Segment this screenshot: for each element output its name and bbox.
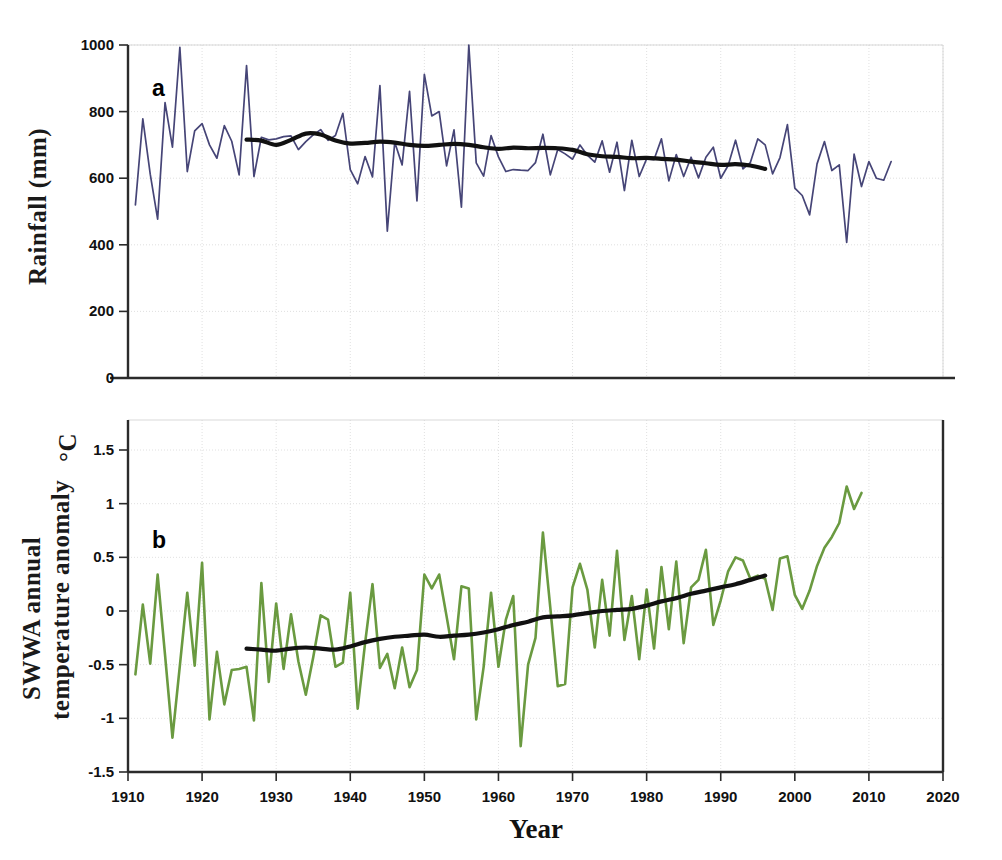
panel-b-ytick-label-2: -0.5 [88,656,114,673]
x-axis-tick-label-1930: 1930 [259,788,292,805]
x-axis-tick-label-1950: 1950 [408,788,441,805]
panel-a-ytick-label-1000: 1000 [81,36,114,53]
panel-a-ytick-label-800: 800 [89,103,114,120]
panel-b-ytick-label-0: -1.5 [88,763,114,780]
panel-a-label: a [152,75,165,101]
x-axis-tick-label-1980: 1980 [630,788,663,805]
panel-a-ytick-label-400: 400 [89,236,114,253]
panel-a-ytick-label-600: 600 [89,169,114,186]
panel-b-ytick-label-6: 1.5 [93,441,114,458]
panel-a-ytick-label-0: 0 [106,369,114,386]
x-axis-tick-label-1910: 1910 [111,788,144,805]
x-axis-tick-label-1920: 1920 [185,788,218,805]
x-axis-tick-label-2000: 2000 [778,788,811,805]
x-axis-title: Year [509,814,563,844]
panel-b-ytick-label-3: 0 [106,602,114,619]
panel-b-label: b [152,527,166,553]
panel-b-ytick-label-5: 1 [106,495,114,512]
x-axis-tick-label-1990: 1990 [704,788,737,805]
climate-figure: 02004006008001000 a Rainfall (mm) -1.5-1… [0,0,1002,860]
x-axis-tick-label-1960: 1960 [482,788,515,805]
x-axis-tick-label-1970: 1970 [556,788,589,805]
panel-b-ytick-label-1: -1 [101,709,114,726]
x-axis-tick-label-2020: 2020 [926,788,959,805]
panel-b-y-axis-title-line1: SWWA annual [18,537,45,700]
x-axis-tick-label-1940: 1940 [334,788,367,805]
panel-a-ytick-label-200: 200 [89,302,114,319]
panel-b-unit-label: °C [54,433,81,462]
panel-a-y-axis-title: Rainfall (mm) [24,128,52,285]
figure-background [0,0,1002,860]
panel-b-ytick-label-4: 0.5 [93,548,114,565]
x-axis-tick-label-2010: 2010 [852,788,885,805]
panel-b-y-axis-title-line2: temperature anomaly [47,480,74,720]
